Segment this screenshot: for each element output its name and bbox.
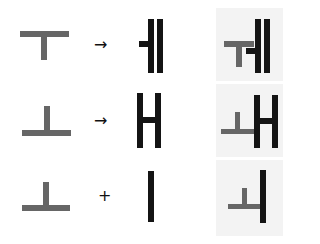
glyph-vertical-1 [148, 19, 154, 73]
result-h-crossbar [260, 118, 272, 124]
arrow-operator: → [94, 113, 107, 129]
inv-t-bar [22, 205, 70, 211]
h-crossbar [143, 117, 155, 123]
result-vertical-1 [255, 19, 261, 73]
plus-operator: + [98, 188, 111, 204]
base-glyph-i [148, 171, 154, 222]
result-vertical [260, 170, 266, 223]
result-inv-t-stem [235, 112, 240, 130]
result-panel-2 [216, 84, 283, 157]
result-panel-1 [216, 8, 283, 81]
t-component-stem [41, 37, 47, 60]
result-panel-3 [216, 160, 283, 236]
result-h-right [272, 95, 278, 148]
inv-t-bar [22, 130, 71, 136]
inv-t-stem [44, 106, 50, 132]
arrow-operator: → [94, 37, 107, 53]
result-inv-t-stem [242, 188, 247, 205]
glyph-vertical-2 [157, 19, 163, 73]
h-right [155, 93, 161, 148]
result-inv-t-bar [228, 204, 260, 209]
result-vertical-2 [264, 19, 270, 73]
result-inv-t-bar [221, 129, 254, 134]
result-t-stem [236, 47, 242, 67]
